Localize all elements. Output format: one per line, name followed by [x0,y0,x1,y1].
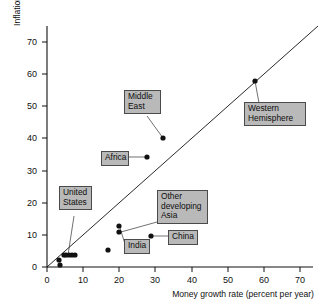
x-axis-ticks [47,267,300,272]
scatter-plot-figure: 0 10 20 30 40 50 60 70 0 10 20 30 40 50 … [0,0,326,305]
point-cluster-e [56,257,61,262]
callout-leader-lines [68,81,259,255]
y-tick-label-20: 20 [27,198,37,208]
point-africa [144,154,149,159]
callout-western-hemisphere[interactable]: Western Hemisphere [244,102,306,126]
x-tick-label-50: 50 [223,275,233,285]
y-tick-label-30: 30 [27,166,37,176]
x-tick-label-10: 10 [78,275,88,285]
y-tick-label-70: 70 [27,37,37,47]
leader-united-states [68,216,74,255]
x-tick-label-30: 30 [150,275,160,285]
leader-middle-east [147,116,163,138]
x-tick-label-40: 40 [187,275,197,285]
point-other-asia-upper [116,223,121,228]
y-tick-label-60: 60 [27,69,37,79]
y-tick-label-10: 10 [27,230,37,240]
x-axis-title: Money growth rate (percent per year) [172,289,314,299]
point-western-hemisphere [252,78,257,83]
callout-united-states[interactable]: United States [59,186,92,210]
point-cluster-f [57,262,62,267]
leader-western-hem [255,81,259,103]
y-axis-title: Inflation rate (percent per year) [12,0,22,26]
y-axis-ticks [42,42,47,267]
point-other-asia-lower [116,229,121,234]
y-tick-label-40: 40 [27,133,37,143]
callout-africa[interactable]: Africa [101,151,129,166]
callout-other-developing-asia[interactable]: Other developing Asia [157,190,208,224]
y-tick-label-50: 50 [27,101,37,111]
point-middle-east [160,135,165,140]
x-tick-label-70: 70 [295,275,305,285]
point-china [148,233,153,238]
callout-china[interactable]: China [168,230,198,245]
point-united-states [61,252,66,257]
callout-middle-east[interactable]: Middle East [124,90,161,114]
x-tick-label-0: 0 [44,275,49,285]
plot-canvas: 0 10 20 30 40 50 60 70 0 10 20 30 40 50 … [0,0,326,305]
leader-other-asia [121,222,157,232]
x-tick-label-20: 20 [114,275,124,285]
callout-india[interactable]: India [124,239,150,254]
y-tick-label-0: 0 [32,262,37,272]
point-india [105,247,110,252]
x-tick-label-60: 60 [259,275,269,285]
